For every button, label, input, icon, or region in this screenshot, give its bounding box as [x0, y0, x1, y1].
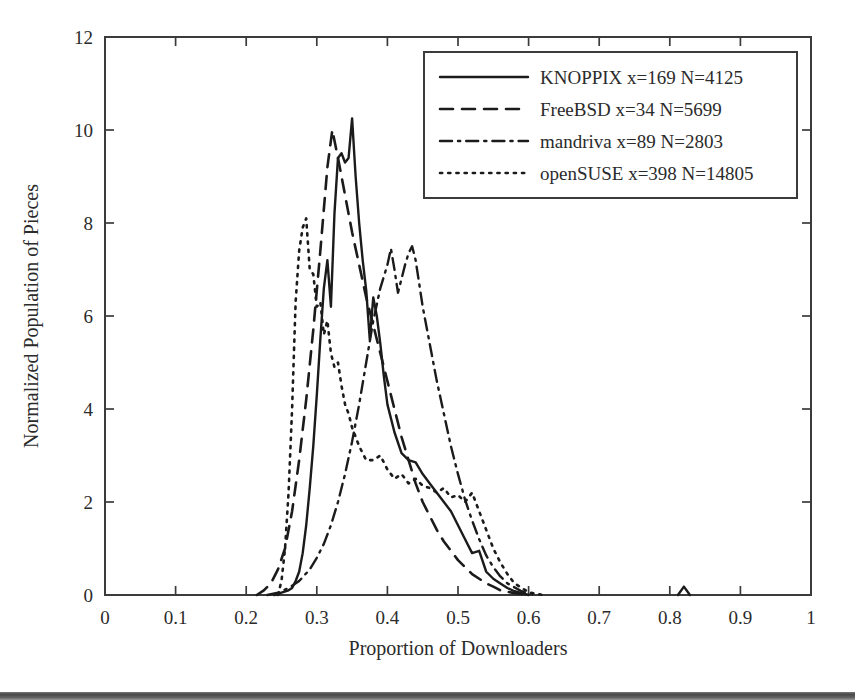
y-axis-tick-label: 4 [84, 399, 94, 420]
legend-label-opensuse: openSUSE x=398 N=14805 [540, 163, 754, 184]
legend-label-freebsd: FreeBSD x=34 N=5699 [540, 99, 722, 120]
x-axis-tick-label: 0.1 [164, 607, 188, 628]
scan-edge-band [0, 692, 855, 700]
y-axis-tick-label: 8 [84, 213, 94, 234]
x-axis-tick-label: 0.7 [587, 607, 611, 628]
x-axis-tick-label: 0.5 [446, 607, 470, 628]
distribution-chart: 00.10.20.30.40.50.60.70.80.91024681012 K… [0, 0, 855, 700]
series-line-freebsd [257, 130, 529, 595]
x-axis-tick-label: 0.2 [234, 607, 258, 628]
x-axis-title: Proportion of Downloaders [349, 637, 568, 660]
x-axis-tick-label: 0.9 [729, 607, 753, 628]
y-axis-tick-label: 6 [84, 306, 94, 327]
legend-label-mandriva: mandriva x=89 N=2803 [540, 131, 723, 152]
x-axis-tick-label: 0 [100, 607, 110, 628]
y-axis-tick-label: 0 [84, 585, 94, 606]
y-axis-title: Normalized Population of Pieces [20, 184, 43, 448]
x-axis-tick-label: 0.8 [658, 607, 682, 628]
x-axis-tick-label: 0.4 [376, 607, 400, 628]
x-axis-tick-label: 1 [806, 607, 816, 628]
y-axis-tick-label: 2 [84, 492, 94, 513]
y-axis-tick-label: 12 [74, 27, 93, 48]
outlier-spike [678, 587, 690, 595]
x-axis-tick-label: 0.3 [305, 607, 329, 628]
legend-label-knoppix: KNOPPIX x=169 N=4125 [540, 67, 743, 88]
series-line-mandriva [267, 246, 535, 595]
x-axis-tick-label: 0.6 [517, 607, 541, 628]
legend-layer: KNOPPIX x=169 N=4125FreeBSD x=34 N=5699m… [424, 52, 797, 198]
figure-container: 00.10.20.30.40.50.60.70.80.91024681012 K… [0, 0, 855, 700]
y-axis-tick-label: 10 [74, 120, 93, 141]
